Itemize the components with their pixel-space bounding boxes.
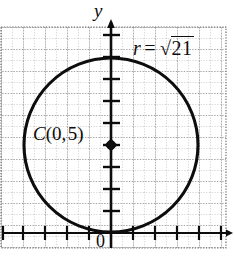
y-axis-arrowhead — [107, 19, 115, 28]
center-point-label: C(0, 5) — [33, 124, 84, 143]
radical-sign-icon: √ — [160, 37, 171, 59]
center-label-y: 5 — [68, 123, 78, 144]
radius-label-equals: = — [144, 37, 156, 59]
radius-label: r=√21 — [133, 38, 194, 58]
circle-graph-figure: y 0 C(0, 5) r=√21 — [0, 0, 234, 257]
radical-expression: √21 — [159, 38, 193, 58]
radicand-value: 21 — [171, 36, 194, 59]
y-axis-label: y — [94, 1, 102, 20]
center-label-comma: , — [62, 123, 67, 144]
center-label-name: C — [33, 123, 46, 144]
radius-label-variable: r — [133, 37, 141, 59]
x-axis-arrowhead — [226, 230, 233, 237]
center-label-close-paren: ) — [77, 123, 83, 144]
origin-label: 0 — [96, 232, 105, 250]
center-label-x: 0 — [52, 123, 62, 144]
